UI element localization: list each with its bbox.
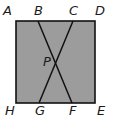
label-e: E xyxy=(97,103,106,118)
label-a: A xyxy=(2,3,12,18)
label-g: G xyxy=(35,103,45,118)
label-p: P xyxy=(43,54,51,69)
label-c: C xyxy=(69,3,79,18)
geometry-diagram: A B C D H G F E P xyxy=(0,0,113,118)
label-h: H xyxy=(5,103,15,118)
label-f: F xyxy=(69,103,77,118)
label-d: D xyxy=(95,3,105,18)
label-b: B xyxy=(34,3,43,18)
